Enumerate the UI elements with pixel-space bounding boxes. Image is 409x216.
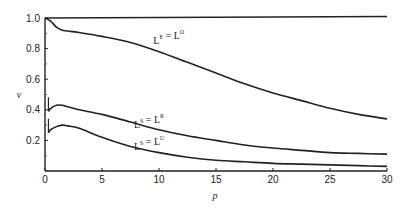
curve-3 (48, 125, 387, 166)
y-tick-label: 0.2 (26, 135, 40, 146)
curves (45, 16, 387, 166)
y-tick-label: 0.4 (26, 104, 40, 115)
x-axis-label: p (212, 190, 218, 201)
y-axis-label: v (17, 89, 22, 100)
x-tick-label: 5 (99, 174, 105, 185)
y-tick-label: 0.6 (26, 74, 40, 85)
x-tick-label: 30 (381, 174, 393, 185)
curve-0 (45, 16, 387, 18)
curve-label-1: LE = LO (153, 29, 185, 46)
x-tick-label: 25 (324, 174, 336, 185)
axes (45, 18, 387, 171)
curve-2 (48, 105, 387, 154)
curve-1 (45, 18, 387, 119)
x-tick-label: 10 (153, 174, 165, 185)
line-chart: 051015202530 0.20.40.60.81.0 LE = LOLS =… (0, 0, 409, 216)
curve-label-3: LS = LU (134, 135, 165, 152)
y-tick-label: 0.8 (26, 43, 40, 54)
y-tick-label: 1.0 (26, 13, 40, 24)
x-tick-label: 0 (42, 174, 48, 185)
x-tick-label: 20 (267, 174, 279, 185)
x-tick-label: 15 (210, 174, 222, 185)
